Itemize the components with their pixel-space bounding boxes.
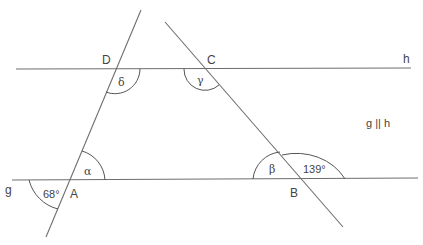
angle-label-139: 139° <box>303 163 326 175</box>
angle-label-alpha: α <box>84 165 92 178</box>
geometry-diagram: D C A B h g g || h δ γ α β 68° 139° <box>0 0 423 245</box>
angle-label-gamma: γ <box>197 74 204 87</box>
transversal-AD <box>46 10 141 237</box>
line-g <box>12 178 418 180</box>
angle-label-68: 68° <box>43 188 60 200</box>
line-label-h: h <box>403 52 410 66</box>
angle-label-delta: δ <box>118 76 125 89</box>
parallel-relation: g || h <box>366 117 390 129</box>
angle-arc-beta <box>253 152 280 179</box>
point-label-B: B <box>290 186 298 200</box>
point-label-D: D <box>102 53 111 67</box>
point-label-C: C <box>207 53 216 67</box>
angle-label-beta: β <box>269 163 275 176</box>
line-label-g: g <box>5 183 12 197</box>
transversal-BC <box>165 22 343 227</box>
point-label-A: A <box>70 187 78 201</box>
line-h <box>16 68 411 69</box>
